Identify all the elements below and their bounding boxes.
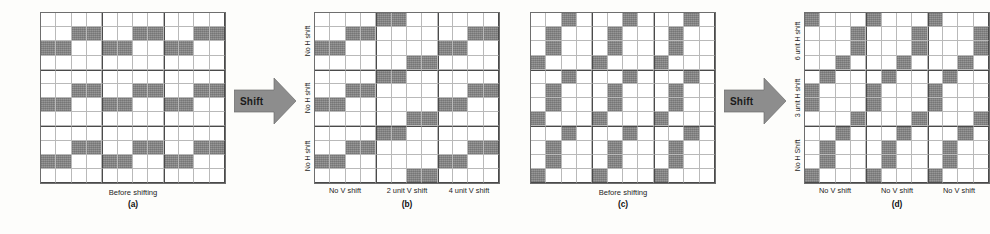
grid-cell: [468, 70, 483, 84]
grid-cell: [820, 169, 835, 183]
grid-cell: [87, 169, 102, 183]
grid-cell: [928, 56, 943, 70]
grid-cell: [638, 112, 653, 126]
grid-cell: [943, 126, 958, 140]
grid-cell: [315, 126, 330, 140]
grid-cell: [133, 169, 148, 183]
grid-cell: [407, 126, 422, 140]
grid-cell: [346, 41, 361, 55]
grid-cell: [592, 112, 607, 126]
panel-b-grid: [314, 12, 500, 184]
grid-cell: [928, 27, 943, 41]
grid-cell: [41, 70, 56, 84]
grid-cell: [422, 27, 437, 41]
grid-cell: [484, 56, 499, 70]
grid-cell: [531, 27, 546, 41]
grid-cell: [41, 56, 56, 70]
grid-cell: [820, 70, 835, 84]
grid-cell: [72, 13, 87, 27]
grid-cell: [882, 141, 897, 155]
grid-cell: [56, 141, 71, 155]
panel-b-col-labels: No V shift2 unit V shift4 unit V shift: [314, 186, 500, 195]
row-block-label: No H shift: [300, 12, 314, 69]
grid-cell: [912, 56, 927, 70]
grid-cell: [56, 112, 71, 126]
panel-c-letter: (c): [618, 199, 628, 209]
grid-cell: [638, 41, 653, 55]
grid-cell: [577, 141, 592, 155]
grid-cell: [330, 84, 345, 98]
grid-cell: [133, 27, 148, 41]
grid-cell: [958, 141, 973, 155]
grid-cell: [194, 112, 209, 126]
grid-cell: [438, 126, 453, 140]
grid-cell: [468, 112, 483, 126]
grid-cell: [102, 112, 117, 126]
grid-cell: [194, 56, 209, 70]
grid-cell: [623, 141, 638, 155]
grid-cell: [805, 155, 820, 169]
grid-cell: [897, 155, 912, 169]
grid-cell: [407, 41, 422, 55]
grid-cell: [546, 27, 561, 41]
grid-cell: [330, 169, 345, 183]
grid-cell: [346, 141, 361, 155]
panel-b: No H shiftNo H shiftNo H shift No V shif…: [300, 12, 500, 209]
grid-cell: [210, 112, 225, 126]
grid-cell: [562, 169, 577, 183]
grid-cell: [102, 169, 117, 183]
grid-cell: [346, 98, 361, 112]
grid-cell: [361, 169, 376, 183]
grid-cell: [851, 155, 866, 169]
grid-cell: [330, 126, 345, 140]
grid-cell: [836, 70, 851, 84]
grid-cell: [194, 155, 209, 169]
grid-cell: [164, 41, 179, 55]
grid-cell: [912, 13, 927, 27]
grid-cell: [882, 112, 897, 126]
grid-cell: [546, 84, 561, 98]
grid-cell: [484, 27, 499, 41]
grid-cell: [943, 56, 958, 70]
grid-cell: [133, 56, 148, 70]
row-block-label: No H shift: [300, 127, 314, 184]
grid-cell: [361, 84, 376, 98]
grid-cell: [851, 141, 866, 155]
grid-cell: [820, 112, 835, 126]
grid-cell: [974, 155, 989, 169]
grid-cell: [210, 13, 225, 27]
grid-cell: [866, 126, 881, 140]
grid-cell: [943, 155, 958, 169]
grid-cell: [638, 27, 653, 41]
grid-cell: [376, 155, 391, 169]
grid-cell: [851, 98, 866, 112]
grid-cell: [210, 98, 225, 112]
grid-cell: [102, 56, 117, 70]
grid-cell: [562, 27, 577, 41]
grid-cell: [407, 27, 422, 41]
grid-cell: [453, 126, 468, 140]
grid-cell: [315, 56, 330, 70]
grid-cell: [974, 98, 989, 112]
grid-cell: [407, 13, 422, 27]
grid-cell: [805, 126, 820, 140]
col-block-label: 4 unit V shift: [438, 186, 500, 195]
grid-cell: [928, 141, 943, 155]
grid-cell: [562, 41, 577, 55]
grid-cell: [72, 84, 87, 98]
grid-cell: [118, 84, 133, 98]
grid-cell: [608, 155, 623, 169]
grid-cell: [623, 41, 638, 55]
grid-cell: [897, 70, 912, 84]
grid-cell: [654, 112, 669, 126]
panel-c: Before shifting (c): [530, 12, 716, 209]
grid-cell: [974, 13, 989, 27]
grid-cell: [194, 126, 209, 140]
grid-cell: [882, 98, 897, 112]
grid-cell: [453, 155, 468, 169]
grid-cell: [836, 13, 851, 27]
grid-cell: [592, 141, 607, 155]
grid-cell: [866, 98, 881, 112]
grid-cell: [346, 112, 361, 126]
